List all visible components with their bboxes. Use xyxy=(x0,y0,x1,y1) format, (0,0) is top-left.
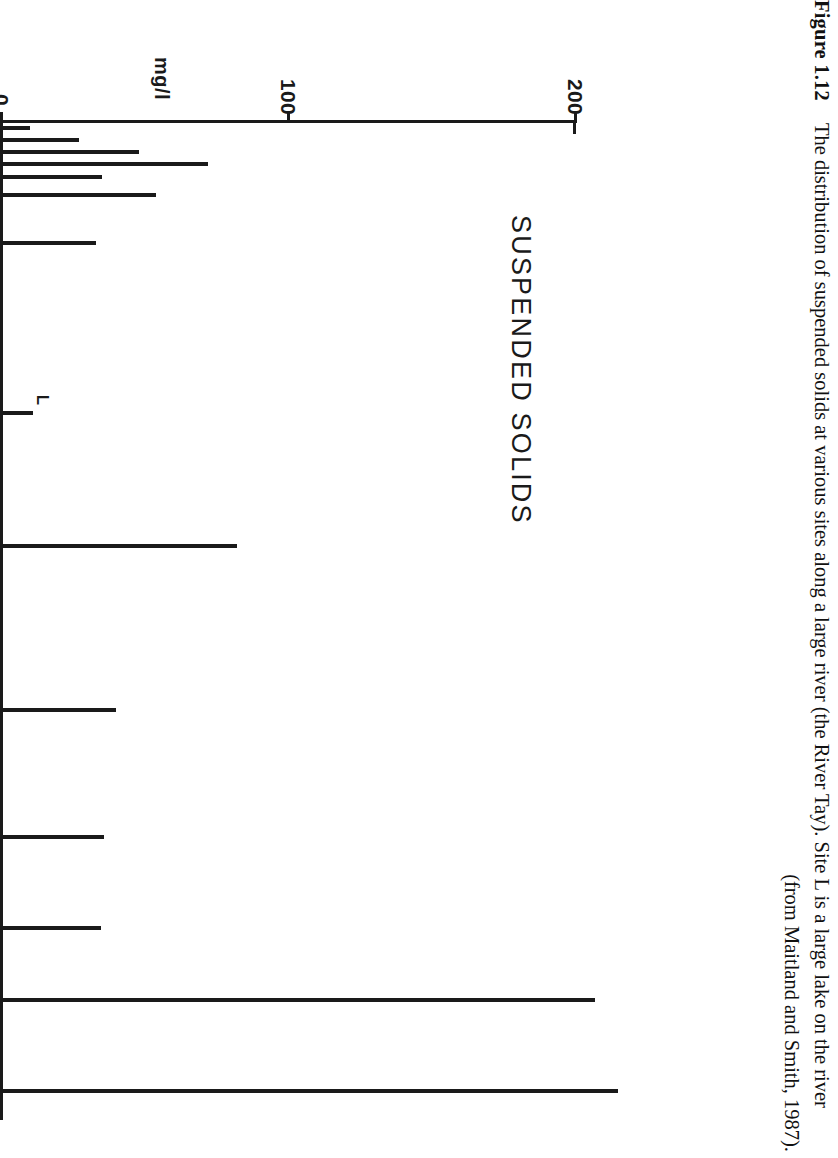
bar-site-9 xyxy=(1,544,237,548)
caption-text-1: The distribution of suspended solids at … xyxy=(811,123,833,1108)
bar-site-L xyxy=(1,411,33,415)
bar-site-1 xyxy=(1,126,30,130)
bar-site-5 xyxy=(1,175,102,179)
y-axis-title: mg/l xyxy=(150,57,173,100)
bar-site-14 xyxy=(1,1089,618,1093)
bar-site-4 xyxy=(1,162,208,166)
chart-figure: SUSPENDED SOLIDS 0 100 200 mg/l xyxy=(0,0,700,1158)
y-tick-label-0: 0 xyxy=(0,94,12,106)
annotation-site-L: L xyxy=(34,395,51,405)
caption-line-1: Figure 1.12The distribution of suspended… xyxy=(811,0,832,1158)
y-tick-label-100: 100 xyxy=(278,79,299,115)
bar-site-13 xyxy=(1,998,595,1002)
chart-title: SUSPENDED SOLIDS xyxy=(505,215,536,525)
bar-site-6 xyxy=(1,193,156,197)
caption-figure-number: Figure 1.12 xyxy=(811,0,833,101)
figure-page: SUSPENDED SOLIDS 0 100 200 mg/l xyxy=(0,0,838,1158)
plot-area: SUSPENDED SOLIDS 0 100 200 mg/l xyxy=(0,0,700,1158)
bar-site-11 xyxy=(1,835,104,839)
x-axis-baseline xyxy=(0,120,3,1120)
bar-site-10 xyxy=(1,708,116,712)
bar-site-2 xyxy=(1,138,79,142)
bar-site-12 xyxy=(1,926,101,930)
y-tick-label-200: 200 xyxy=(565,79,586,115)
caption-line-2: (from Maitland and Smith, 1987). xyxy=(781,0,802,1158)
figure-caption: Figure 1.12The distribution of suspended… xyxy=(742,0,838,1158)
bar-site-3 xyxy=(1,150,139,154)
bar-site-7 xyxy=(1,241,96,245)
